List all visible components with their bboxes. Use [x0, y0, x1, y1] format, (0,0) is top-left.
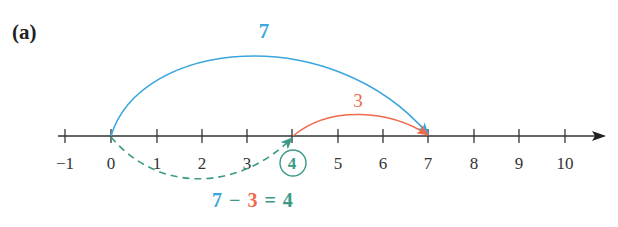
- number-line-diagram: −1012345678910 7 3: [0, 0, 618, 227]
- tick-label-0: 0: [107, 154, 116, 173]
- tick-label-5: 5: [334, 154, 343, 173]
- equation-equals: =: [264, 189, 276, 211]
- jump-arc-7: [111, 56, 428, 136]
- jump-arc-3: [293, 114, 428, 136]
- tick-label-8: 8: [470, 154, 479, 173]
- equation-minus: −: [229, 189, 241, 211]
- tick-label-2: 2: [198, 154, 207, 173]
- tick-labels: −1012345678910: [56, 154, 574, 173]
- equation: 7 − 3 = 4: [212, 189, 294, 212]
- tick-label-4: 4: [288, 154, 297, 173]
- tick-label--1: −1: [56, 154, 74, 173]
- tick-label-9: 9: [515, 154, 524, 173]
- equation-subtrahend: 3: [247, 189, 258, 211]
- equation-result: 4: [283, 189, 294, 211]
- tick-label-6: 6: [379, 154, 388, 173]
- jump-label-7: 7: [259, 19, 270, 43]
- tick-label-7: 7: [424, 154, 433, 173]
- jump-label-3: 3: [353, 90, 363, 111]
- equation-minuend: 7: [212, 189, 223, 211]
- tick-label-10: 10: [557, 154, 574, 173]
